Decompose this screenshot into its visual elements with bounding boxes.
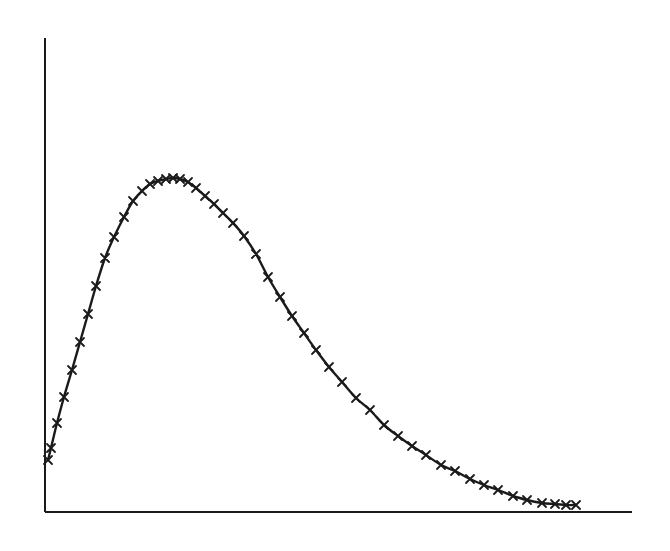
- x-marker: [352, 394, 360, 402]
- x-marker: [252, 250, 260, 258]
- x-marker: [366, 406, 374, 414]
- x-marker: [325, 363, 333, 371]
- x-marker: [184, 178, 192, 186]
- x-marker: [129, 197, 137, 205]
- x-marker: [300, 329, 308, 337]
- x-marker: [338, 378, 346, 386]
- x-marker: [229, 219, 237, 227]
- x-marker: [210, 200, 218, 208]
- x-marker: [276, 293, 284, 301]
- x-marker: [192, 184, 200, 192]
- data-line: [48, 178, 576, 505]
- x-marker: [437, 461, 445, 469]
- x-marker: [120, 213, 128, 221]
- chart: [0, 0, 670, 551]
- x-marker: [264, 273, 272, 281]
- x-marker: [219, 209, 227, 217]
- x-marker: [380, 421, 388, 429]
- x-marker: [312, 346, 320, 354]
- x-marker: [288, 312, 296, 320]
- x-marker: [422, 451, 430, 459]
- x-marker: [394, 432, 402, 440]
- data-markers: [44, 174, 580, 509]
- x-marker: [138, 187, 146, 195]
- x-marker: [240, 232, 248, 240]
- x-marker: [146, 180, 154, 188]
- x-marker: [201, 192, 209, 200]
- x-marker: [408, 442, 416, 450]
